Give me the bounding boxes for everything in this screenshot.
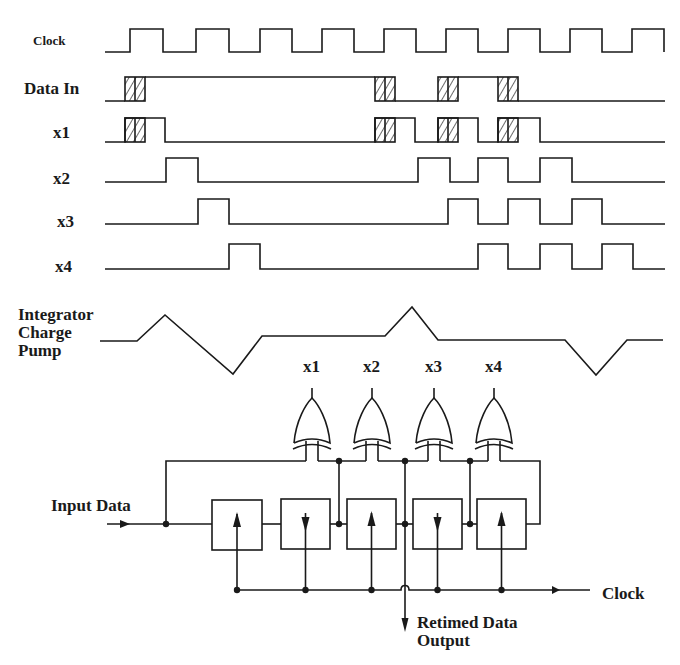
label-gate-x3: x3	[425, 358, 442, 375]
label-input-data: Input Data	[51, 497, 131, 514]
retiming-circuit	[107, 388, 590, 632]
junction-dot	[402, 458, 408, 464]
junction-dot	[336, 458, 342, 464]
label-clock-input: Clock	[602, 585, 645, 602]
x4-waveform	[105, 244, 665, 269]
input-data-arrow-icon	[120, 520, 130, 528]
label-x4-signal: x4	[55, 258, 72, 275]
retimed-output-arrow-icon	[402, 618, 409, 632]
label-gate-x1: x1	[303, 358, 320, 375]
x2-waveform	[105, 158, 665, 182]
integrator-charge-pump-waveform	[100, 307, 663, 375]
arrow-down-icon	[434, 517, 442, 532]
clock-bus-wire	[237, 586, 590, 591]
timing-diagram-figure: Clock Data In x1 x2 x3 x4 Integrator Cha…	[0, 0, 680, 665]
xor-gate-4-icon	[476, 398, 512, 443]
wire-xor4-to-last-register	[500, 461, 540, 524]
xor-input-curve	[475, 445, 513, 450]
label-retimed-data-output: Retimed Data Output	[417, 614, 518, 650]
junction-dot	[163, 521, 169, 527]
label-x3-signal: x3	[57, 213, 74, 230]
label-clock-signal: Clock	[33, 34, 66, 47]
label-integrator-charge-pump: Integrator Charge Pump	[18, 306, 94, 360]
waveform-group	[105, 29, 665, 269]
xor-gate-3-icon	[416, 398, 452, 443]
xor-gate-2-icon	[354, 398, 390, 443]
wire-input-to-xor1	[166, 461, 306, 524]
label-x2-signal: x2	[53, 170, 70, 187]
xor-input-curve	[293, 445, 331, 450]
xor-gate-1-icon	[294, 398, 330, 443]
diagram-canvas	[0, 0, 680, 665]
label-data-in-signal: Data In	[24, 80, 79, 97]
clock-waveform	[105, 29, 664, 52]
xor-input-curve	[353, 445, 391, 450]
clock-arrow-icon	[552, 586, 560, 594]
arrow-up-icon	[368, 511, 376, 526]
charge-pump-line	[100, 307, 663, 375]
x3-waveform	[105, 199, 665, 224]
arrow-up-icon	[233, 512, 241, 527]
arrow-down-icon	[302, 517, 310, 532]
xor-input-curve	[415, 445, 453, 450]
label-gate-x4: x4	[485, 358, 502, 375]
label-x1-signal: x1	[53, 124, 70, 141]
arrow-up-icon	[498, 511, 506, 526]
junction-dot	[467, 458, 473, 464]
label-gate-x2: x2	[363, 358, 380, 375]
